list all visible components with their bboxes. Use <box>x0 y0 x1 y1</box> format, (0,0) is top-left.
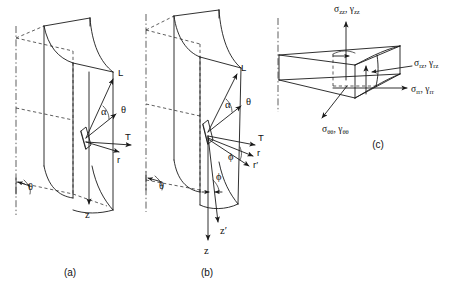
panel-c-stress-hoop-label: σθθ, γθθ <box>322 124 349 135</box>
diagram-canvas: θ z L θ α T r (a) <box>0 0 467 291</box>
panel-c-caption: (c) <box>372 139 384 150</box>
panel-b-angle-phi-vectors-label: ϕ <box>228 151 234 162</box>
panel-a-vector-L-line <box>86 79 113 138</box>
panel-b-vector-theta-label: θ <box>246 96 251 107</box>
panel-a: θ z L θ α T r (a) <box>16 18 131 278</box>
panel-a-bottom-outer-arc-lower <box>73 210 113 213</box>
panel-c-bottom-front-ray <box>279 80 355 98</box>
panel-b-top-back-edge <box>174 10 219 16</box>
panel-a-bottom-hidden-chord <box>73 194 107 206</box>
panel-c-bottom-back-ray <box>279 74 400 80</box>
panel-b: θ ϕ z z′ L θ α T <box>146 10 264 278</box>
panel-b-axis-z-prime-label: z′ <box>220 225 227 236</box>
panel-b-bottom-outer-arc-lower <box>200 204 238 209</box>
panel-b-right-vertical-edge <box>238 68 241 204</box>
panel-a-dashed-top-edge <box>16 26 44 38</box>
panel-b-dashed-top-radius <box>146 30 200 44</box>
panel-b-surface-element-fold <box>203 124 208 144</box>
panel-b-dashed-mid-radius <box>146 104 200 116</box>
panel-c-hidden-top-arc <box>333 51 355 54</box>
panel-a-top-back-edge <box>44 18 90 26</box>
panel-b-top-inner-arc <box>174 16 200 57</box>
panel-b-angle-alpha-label: α <box>225 99 231 110</box>
panel-b-vector-L-label: L <box>241 62 246 73</box>
panel-a-dashed-top-radius <box>16 38 73 51</box>
panel-a-vector-T-label: T <box>125 131 131 142</box>
panel-b-angle-theta-label: θ <box>159 180 164 191</box>
panel-a-vector-T-line <box>86 142 131 145</box>
panel-a-vector-r-label: r <box>117 154 120 165</box>
panel-b-bottom-outer-arc-upper <box>219 162 238 204</box>
panel-a-vector-theta-label: θ <box>121 104 126 115</box>
panel-a-vector-theta-line <box>86 114 116 138</box>
panel-b-axis-z-label: z <box>204 245 209 256</box>
panel-a-vector-L-label: L <box>118 67 123 78</box>
panel-b-dashed-top-edge <box>146 16 174 30</box>
panel-b-dashed-bottom-radius <box>146 180 200 190</box>
figure-container: θ z L θ α T r (a) <box>0 0 467 291</box>
panel-b-vector-L-line <box>208 74 237 132</box>
panel-a-angle-theta-label: θ <box>28 181 33 192</box>
panel-a-axis-z-label: z <box>85 209 90 220</box>
panel-c-outer-mid-ridge <box>376 55 378 86</box>
panel-c: σzz, γzz σrz, γrz σrr, γrr σθθ, γθθ (c) <box>278 4 438 150</box>
panel-a-surface-element-fold <box>81 131 86 149</box>
panel-b-top-outer-arc <box>219 10 241 68</box>
panel-b-top-front-chord <box>200 57 241 68</box>
panel-a-top-front-chord <box>73 63 113 72</box>
panel-b-vector-r-label: r <box>257 147 260 158</box>
panel-b-vector-r-prime-label: r′ <box>253 159 258 170</box>
panel-b-bottom-inner-arc <box>174 160 200 192</box>
panel-c-stress-rz-label: σrz, γrz <box>414 58 438 69</box>
panel-c-stress-rr-label: σrr, γrr <box>411 84 435 95</box>
panel-c-top-front-ray <box>279 55 355 65</box>
panel-a-bottom-outer-arc-upper <box>92 166 113 210</box>
panel-b-vector-T-label: T <box>258 132 264 143</box>
panel-c-stress-zz-label: σzz, γzz <box>334 4 360 15</box>
panel-a-angle-alpha-label: α <box>101 106 107 117</box>
panel-a-dashed-mid-radius <box>16 108 73 120</box>
panel-b-caption: (b) <box>201 267 213 278</box>
panel-b-phi-vectors-arc <box>240 147 242 160</box>
panel-a-top-inner-arc <box>44 26 73 63</box>
panel-a-top-outer-arc <box>90 18 113 72</box>
panel-b-angle-phi-base-label: ϕ <box>216 171 222 182</box>
panel-a-caption: (a) <box>64 267 76 278</box>
